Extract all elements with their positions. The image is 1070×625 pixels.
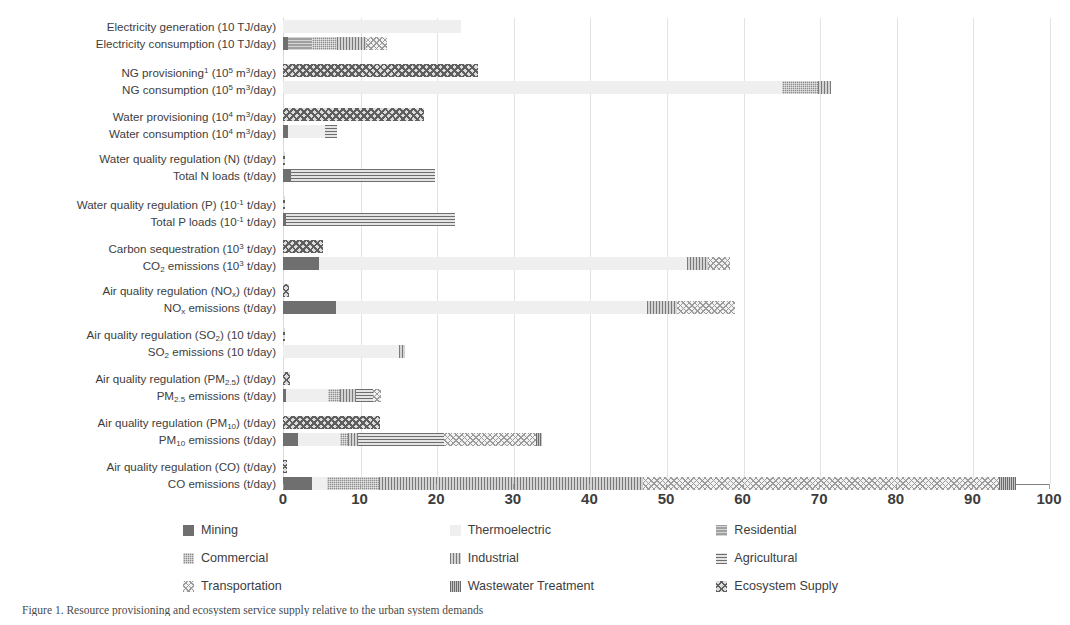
bar-segment-ecosystem-supply[interactable] [283, 108, 424, 121]
bar-water-provisioning-10-4-m3-day[interactable] [283, 108, 1049, 121]
group-spacer [0, 52, 1070, 62]
chart-row: Air quality regulation (PM2.5) (t/day) [0, 370, 1070, 387]
bar-segment-transportation[interactable] [373, 389, 381, 402]
bar-segment-thermoelectric[interactable] [336, 301, 647, 314]
row-label-air-quality-regulation-pm2-5-t-day: Air quality regulation (PM2.5) (t/day) [0, 370, 276, 387]
legend-row: CommercialIndustrialAgricultural [183, 544, 983, 572]
bar-segment-mining[interactable] [283, 301, 336, 314]
bar-segment-commercial[interactable] [340, 433, 348, 446]
bar-segment-ecosystem-supply[interactable] [283, 460, 287, 473]
bar-segment-thermoelectric[interactable] [319, 257, 687, 270]
bar-segment-ecosystem-supply[interactable] [283, 196, 285, 209]
bar-air-quality-regulation-so2-10-t-day[interactable] [283, 328, 1049, 341]
bar-segment-thermoelectric[interactable] [288, 125, 326, 138]
legend-swatch-icon-commercial [183, 553, 194, 564]
bar-segment-ecosystem-supply[interactable] [283, 152, 285, 165]
bar-segment-commercial[interactable] [312, 37, 337, 50]
bar-electricity-consumption-10-tj-day[interactable] [283, 37, 1049, 50]
bar-air-quality-regulation-pm2-5-t-day[interactable] [283, 372, 1049, 385]
bar-nox-emissions-t-day[interactable] [283, 301, 1049, 314]
chart-row: Electricity generation (10 TJ/day) [0, 18, 1070, 35]
bar-segment-industrial[interactable] [687, 257, 708, 270]
legend-item-residential[interactable]: Residential [716, 523, 983, 537]
bar-segment-thermoelectric[interactable] [298, 433, 341, 446]
bar-pm10-emissions-t-day[interactable] [283, 433, 1049, 446]
bar-air-quality-regulation-co-t-day[interactable] [283, 460, 1049, 473]
legend-item-transportation[interactable]: Transportation [183, 579, 450, 593]
bar-segment-industrial[interactable] [399, 345, 404, 358]
group-spacer [0, 184, 1070, 194]
bar-segment-mining[interactable] [283, 433, 298, 446]
tick-mark-60 [743, 484, 744, 489]
bar-water-consumption-10-4-m3-day[interactable] [283, 125, 1049, 138]
bar-segment-thermoelectric[interactable] [283, 345, 399, 358]
bar-water-quality-regulation-n-t-day[interactable] [283, 152, 1049, 165]
bar-segment-ecosystem-supply[interactable] [283, 240, 323, 253]
legend-item-thermoelectric[interactable]: Thermoelectric [450, 523, 717, 537]
bar-segment-commercial[interactable] [782, 81, 818, 94]
legend-item-ecosystem-supply[interactable]: Ecosystem Supply [716, 579, 983, 593]
bar-segment-thermoelectric[interactable] [283, 20, 461, 33]
bar-segment-transportation[interactable] [708, 257, 729, 270]
bar-co2-emissions-10-3-t-day[interactable] [283, 257, 1049, 270]
x-tick-label-90: 90 [942, 488, 1002, 510]
bar-water-quality-regulation-p-10-1-t-day[interactable] [283, 196, 1049, 209]
bar-total-n-loads-t-day[interactable] [283, 169, 1049, 182]
bar-segment-industrial[interactable] [348, 433, 358, 446]
row-label-water-provisioning-10-4-m3-day: Water provisioning (104 m3/day) [0, 106, 276, 123]
chart-row: Air quality regulation (NOx) (t/day) [0, 282, 1070, 299]
row-label-water-quality-regulation-n-t-day: Water quality regulation (N) (t/day) [0, 150, 276, 167]
bar-segment-agricultural[interactable] [286, 213, 455, 226]
x-tick-label-70: 70 [789, 488, 849, 510]
bar-air-quality-regulation-nox-t-day[interactable] [283, 284, 1049, 297]
bar-segment-agricultural[interactable] [291, 169, 435, 182]
bar-ng-provisioning1-10-5-m3-day[interactable] [283, 64, 1049, 77]
bar-pm2-5-emissions-t-day[interactable] [283, 389, 1049, 402]
legend-swatch-icon-ecosystem-supply [716, 581, 727, 592]
bar-segment-agricultural[interactable] [325, 125, 336, 138]
bar-segment-agricultural[interactable] [358, 433, 444, 446]
bar-ng-consumption-10-5-m3-day[interactable] [283, 81, 1049, 94]
bar-air-quality-regulation-pm10-t-day[interactable] [283, 416, 1049, 429]
bar-segment-ecosystem-supply[interactable] [283, 416, 380, 429]
bar-segment-commercial[interactable] [328, 389, 339, 402]
bar-segment-ecosystem-supply[interactable] [283, 328, 285, 341]
legend-item-commercial[interactable]: Commercial [183, 551, 450, 565]
legend-item-agricultural[interactable]: Agricultural [716, 551, 983, 565]
row-label-total-p-loads-10-1-t-day: Total P loads (10-1 t/day) [0, 211, 276, 228]
bar-segment-thermoelectric[interactable] [283, 81, 782, 94]
bar-segment-residential[interactable] [288, 37, 312, 50]
legend-swatch-icon-agricultural [716, 553, 727, 564]
bar-segment-transportation[interactable] [444, 433, 536, 446]
legend-item-wastewater-treatment[interactable]: Wastewater Treatment [450, 579, 717, 593]
bar-segment-ecosystem-supply[interactable] [283, 64, 478, 77]
tick-mark-90 [972, 484, 973, 489]
bar-carbon-sequestration-10-3-t-day[interactable] [283, 240, 1049, 253]
bar-segment-ecosystem-supply[interactable] [283, 284, 289, 297]
tick-mark-50 [666, 484, 667, 489]
legend-swatch-icon-thermoelectric [450, 525, 461, 536]
x-tick-label-100: 100 [1019, 488, 1070, 510]
bar-segment-mining[interactable] [283, 169, 291, 182]
bar-segment-transportation[interactable] [677, 301, 734, 314]
bar-segment-industrial[interactable] [337, 37, 366, 50]
bar-segment-agricultural[interactable] [356, 389, 374, 402]
tick-mark-10 [360, 484, 361, 489]
bar-total-p-loads-10-1-t-day[interactable] [283, 213, 1049, 226]
group-spacer [0, 140, 1070, 150]
bar-segment-wastewater-treatment[interactable] [536, 433, 542, 446]
bar-segment-industrial[interactable] [647, 301, 678, 314]
bar-segment-thermoelectric[interactable] [286, 389, 328, 402]
legend-item-mining[interactable]: Mining [183, 523, 450, 537]
row-label-ng-provisioning1-10-5-m3-day: NG provisioning1 (105 m3/day) [0, 62, 276, 79]
bar-segment-industrial[interactable] [818, 81, 832, 94]
bar-segment-industrial[interactable] [340, 389, 356, 402]
legend-swatch-icon-wastewater-treatment [450, 581, 461, 592]
legend-item-industrial[interactable]: Industrial [450, 551, 717, 565]
bar-segment-transportation[interactable] [366, 37, 387, 50]
bar-segment-mining[interactable] [283, 257, 319, 270]
bar-segment-ecosystem-supply[interactable] [283, 372, 290, 385]
bar-so2-emissions-10-t-day[interactable] [283, 345, 1049, 358]
bar-electricity-generation-10-tj-day[interactable] [283, 20, 1049, 33]
chart-group: Water provisioning (104 m3/day)Water con… [0, 106, 1070, 140]
